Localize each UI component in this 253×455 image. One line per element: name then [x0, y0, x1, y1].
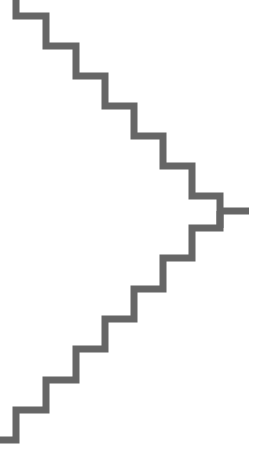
lower-staircase-line [0, 211, 220, 440]
staircase-chevron-diagram [0, 0, 253, 455]
upper-staircase-line [16, 0, 220, 228]
diagram-canvas [0, 0, 253, 455]
